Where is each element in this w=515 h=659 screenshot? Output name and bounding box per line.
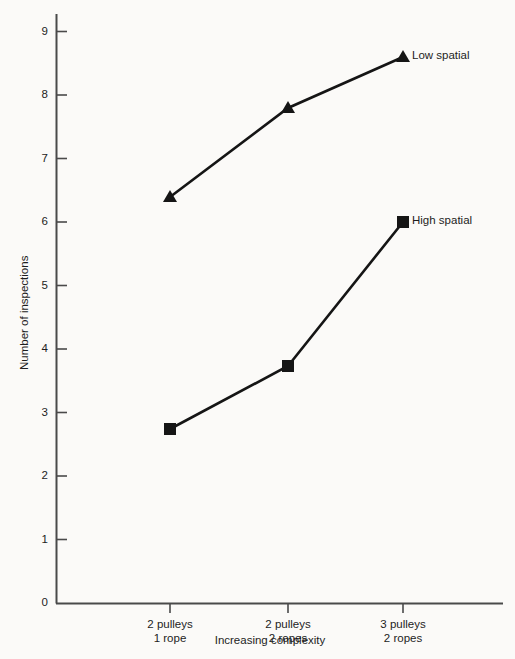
y-tick-label-6: 6 <box>28 216 48 228</box>
marker-triangle <box>396 50 410 62</box>
chart-container: 9 8 7 6 5 4 3 2 1 0 Number of inspection… <box>0 0 515 659</box>
chart-plot-area <box>0 0 515 659</box>
series-high-spatial <box>164 216 409 435</box>
series-label-low-spatial: Low spatial <box>412 50 470 62</box>
x-axis-title: Increasing complexity <box>170 634 370 646</box>
y-tick-label-5: 5 <box>28 280 48 292</box>
marker-square <box>397 216 409 228</box>
series-label-high-spatial: High spatial <box>412 215 472 227</box>
x-category-1-line1: 2 pulleys <box>265 618 310 630</box>
y-tick-label-0: 0 <box>28 597 48 609</box>
axis-lines <box>56 14 503 604</box>
y-tick-label-4: 4 <box>28 343 48 355</box>
x-category-2-line2: 2 ropes <box>384 632 422 644</box>
marker-square <box>164 423 176 435</box>
y-tick-label-9: 9 <box>28 26 48 38</box>
y-tick-label-7: 7 <box>28 153 48 165</box>
y-tick-label-1: 1 <box>28 534 48 546</box>
x-category-0-line1: 2 pulleys <box>147 618 192 630</box>
y-tick-label-8: 8 <box>28 89 48 101</box>
marker-square <box>282 360 294 372</box>
y-axis-ticks <box>57 32 67 540</box>
y-tick-label-2: 2 <box>28 470 48 482</box>
y-axis-title: Number of inspections <box>18 256 30 370</box>
x-category-2-line1: 3 pulleys <box>380 618 425 630</box>
y-tick-label-3: 3 <box>28 407 48 419</box>
series-low-spatial <box>163 50 410 202</box>
